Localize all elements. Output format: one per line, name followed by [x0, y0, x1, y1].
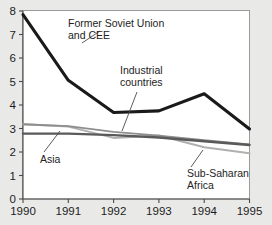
annotation-label-asia: Asia — [40, 153, 61, 165]
y-axis-tick-label: 6 — [10, 52, 16, 64]
annotation-label-ssa: Sub-Saharan — [187, 167, 249, 179]
y-axis-tick-label: 3 — [10, 123, 16, 135]
x-axis-tick-label: 1991 — [56, 205, 82, 217]
x-axis-tick-label: 1990 — [10, 205, 36, 217]
annotation-label-industrial: countries — [120, 76, 163, 88]
annotation-label-fsu: Former Soviet Union — [68, 17, 164, 29]
y-axis-tick-label: 7 — [10, 29, 16, 41]
x-axis-tick-label: 1994 — [191, 205, 217, 217]
y-axis-tick-label: 2 — [10, 146, 16, 158]
x-axis-tick-label: 1993 — [146, 205, 172, 217]
annotation-label-ssa: Africa — [187, 179, 214, 191]
y-axis-tick-label: 5 — [10, 76, 16, 88]
line-chart: 012345678 199019911992199319941995 Forme… — [0, 0, 272, 225]
y-axis-tick-label: 1 — [10, 170, 16, 182]
x-axis-tick-label: 1992 — [101, 205, 127, 217]
annotation-label-industrial: Industrial — [120, 64, 163, 76]
x-axis-tick-label: 1995 — [237, 205, 263, 217]
y-axis-tick-label: 0 — [10, 193, 16, 205]
annotation-label-fsu: and CEE — [68, 29, 110, 41]
chart-canvas: 012345678 199019911992199319941995 Forme… — [0, 0, 272, 225]
y-axis-tick-label: 4 — [10, 99, 17, 111]
y-axis-tick-label: 8 — [10, 5, 16, 17]
